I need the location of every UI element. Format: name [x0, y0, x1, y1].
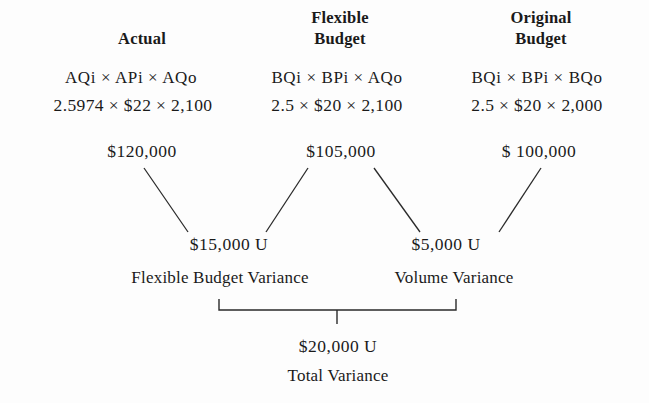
variance-analysis-diagram: Actual Flexible Budget Original Budget A… — [0, 0, 649, 403]
connector-actual-to-fbv — [144, 168, 188, 232]
label-flexible-budget-variance: Flexible Budget Variance — [131, 268, 308, 288]
connector-flexbudget-to-vv — [374, 168, 420, 232]
column-header-original-budget-line1: Original — [510, 8, 571, 28]
column-header-flexible-budget-line1: Flexible — [311, 8, 369, 28]
numbers-actual: 2.5974 × $22 × 2,100 — [54, 95, 213, 116]
amount-total-variance: $20,000 U — [299, 336, 377, 357]
formula-flexible-budget: BQi × BPi × AQo — [271, 68, 402, 88]
amount-original-budget: $ 100,000 — [502, 141, 577, 162]
label-total-variance: Total Variance — [288, 366, 389, 386]
column-header-original-budget-line2: Budget — [515, 29, 567, 49]
formula-actual: AQi × APi × AQo — [65, 68, 197, 88]
amount-actual: $120,000 — [107, 141, 177, 162]
amount-flexible-budget: $105,000 — [306, 141, 376, 162]
column-header-flexible-budget-line2: Budget — [314, 29, 366, 49]
numbers-original-budget: 2.5 × $20 × 2,000 — [471, 95, 603, 116]
connector-origbudget-to-vv — [499, 168, 541, 232]
formula-original-budget: BQi × BPi × BQo — [471, 68, 602, 88]
amount-volume-variance: $5,000 U — [411, 234, 480, 255]
column-header-actual: Actual — [118, 29, 166, 49]
numbers-flexible-budget: 2.5 × $20 × 2,100 — [271, 95, 403, 116]
label-volume-variance: Volume Variance — [395, 268, 514, 288]
amount-flexible-budget-variance: $15,000 U — [190, 234, 268, 255]
connector-flexbudget-to-fbv — [266, 168, 308, 232]
total-variance-bracket — [219, 299, 456, 310]
